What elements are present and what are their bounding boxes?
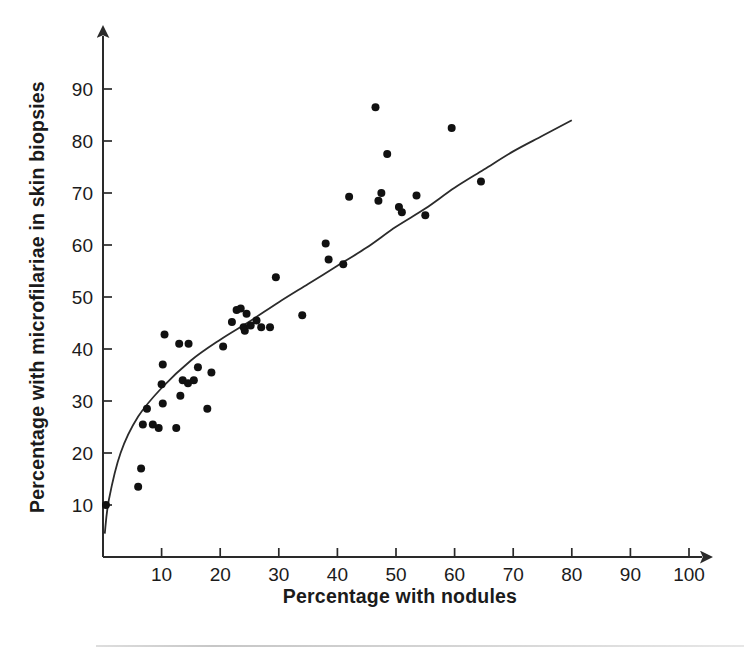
x-tick-label: 10 xyxy=(151,564,172,585)
data-point xyxy=(228,318,236,326)
data-point xyxy=(345,193,353,201)
data-point xyxy=(139,420,147,428)
data-point xyxy=(272,273,280,281)
x-axis-title: Percentage with nodules xyxy=(283,585,517,607)
x-tick-label: 100 xyxy=(673,564,705,585)
data-point xyxy=(477,178,485,186)
data-point xyxy=(194,363,202,371)
x-tick-label: 60 xyxy=(444,564,465,585)
y-tick-label: 50 xyxy=(72,287,93,308)
data-point xyxy=(159,400,167,408)
y-tick-label: 80 xyxy=(72,131,93,152)
data-point xyxy=(137,465,145,473)
data-point xyxy=(243,310,251,318)
data-point xyxy=(175,340,183,348)
data-points xyxy=(102,103,485,509)
data-point xyxy=(203,405,211,413)
data-point xyxy=(413,192,421,200)
data-point xyxy=(371,103,379,111)
x-tick-label: 90 xyxy=(620,564,641,585)
chart-canvas: 102030405060708090 102030405060708090100… xyxy=(0,0,744,651)
data-point xyxy=(339,260,347,268)
data-point xyxy=(185,340,193,348)
data-point xyxy=(190,376,198,384)
data-point xyxy=(421,211,429,219)
data-point xyxy=(172,424,180,432)
y-tick-label: 90 xyxy=(72,79,93,100)
data-point xyxy=(155,424,163,432)
x-tick-label: 50 xyxy=(385,564,406,585)
x-tick-label: 70 xyxy=(503,564,524,585)
y-tick-label: 70 xyxy=(72,183,93,204)
y-axis-title: Percentage with microfilariae in skin bi… xyxy=(26,81,48,513)
data-point xyxy=(207,368,215,376)
page-scan-edge xyxy=(96,645,744,647)
data-point xyxy=(383,150,391,158)
data-point xyxy=(176,392,184,400)
x-tick-label: 30 xyxy=(268,564,289,585)
data-point xyxy=(219,342,227,350)
data-point xyxy=(257,323,265,331)
fit-curve xyxy=(105,120,572,533)
y-tick-label: 60 xyxy=(72,235,93,256)
y-tick-label: 20 xyxy=(72,443,93,464)
data-point xyxy=(134,483,142,491)
data-point xyxy=(253,316,261,324)
data-point xyxy=(377,189,385,197)
y-tick-label: 30 xyxy=(72,391,93,412)
data-point xyxy=(266,323,274,331)
data-point xyxy=(161,330,169,338)
y-tick-label: 40 xyxy=(72,339,93,360)
data-point xyxy=(102,501,110,509)
data-point xyxy=(398,208,406,216)
data-point xyxy=(448,124,456,132)
data-point xyxy=(158,380,166,388)
data-point xyxy=(143,405,151,413)
x-axis-ticks: 102030405060708090100 xyxy=(151,548,705,585)
x-tick-label: 40 xyxy=(327,564,348,585)
x-tick-label: 20 xyxy=(210,564,231,585)
data-point xyxy=(298,311,306,319)
data-point xyxy=(374,197,382,205)
data-point xyxy=(325,256,333,264)
y-axis-ticks: 102030405060708090 xyxy=(72,79,112,516)
y-tick-label: 10 xyxy=(72,495,93,516)
x-tick-label: 80 xyxy=(561,564,582,585)
data-point xyxy=(322,239,330,247)
scatter-plot-figure: 102030405060708090 102030405060708090100… xyxy=(0,0,744,651)
data-point xyxy=(159,361,167,369)
